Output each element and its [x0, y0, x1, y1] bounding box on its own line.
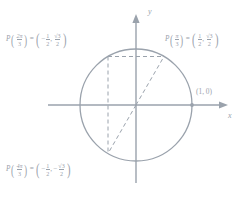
x-coordinate-fraction: 1 2: [46, 163, 50, 177]
dashed-radius-4pi-over-3: [108, 105, 136, 154]
close-paren-icon: ): [24, 165, 27, 176]
y-coordinate-fraction: √3 2: [206, 33, 214, 47]
x-axis-label: x: [228, 112, 232, 120]
open-paren-icon: (: [36, 164, 40, 176]
label-point-1-0: (1, 0): [196, 88, 212, 95]
open-paren-icon: (: [170, 35, 173, 46]
x-axis-arrowhead: [219, 101, 228, 108]
close-paren-icon: ): [215, 34, 219, 46]
y-sign: −: [53, 166, 57, 173]
y-coordinate-fraction: √3 2: [54, 33, 62, 47]
open-paren-icon: (: [11, 35, 14, 46]
label-function-p: P: [6, 166, 10, 173]
close-paren-icon: ): [24, 35, 27, 46]
comma: ,: [50, 36, 52, 43]
close-paren-icon: ): [67, 164, 71, 176]
angle-fraction: 4π 3: [16, 163, 23, 177]
close-paren-icon: ): [63, 34, 67, 46]
label-function-p: P: [6, 36, 10, 43]
equals-sign: =: [186, 36, 190, 43]
y-axis-arrowhead: [132, 14, 139, 23]
comma: ,: [50, 166, 52, 173]
open-paren-icon: (: [11, 165, 14, 176]
x-sign: −: [41, 166, 45, 173]
point-marker-1-0: [190, 103, 194, 107]
equals-sign: =: [30, 36, 34, 43]
open-paren-icon: (: [36, 34, 40, 46]
x-sign: −: [41, 36, 45, 43]
y-axis-label: y: [148, 8, 152, 16]
angle-fraction: π 3: [175, 33, 179, 47]
label-point-2pi-over-3: P ( 2π 3 ) = ( − 1 2 , √3 2 ): [6, 33, 67, 47]
open-paren-icon: (: [192, 34, 196, 46]
label-function-p: P: [165, 36, 169, 43]
dashed-radius-pi-over-3: [136, 57, 164, 106]
label-point-4pi-over-3: P ( 4π 3 ) = ( − 1 2 , − √3 2 ): [6, 163, 71, 177]
label-point-pi-over-3: P ( π 3 ) = ( 1 2 , √3 2 ): [165, 33, 219, 47]
comma: ,: [202, 36, 204, 43]
x-coordinate-fraction: 1 2: [198, 33, 202, 47]
close-paren-icon: ): [180, 35, 183, 46]
unit-circle-figure: P ( 2π 3 ) = ( − 1 2 , √3 2 ) P: [0, 0, 239, 200]
angle-fraction: 2π 3: [16, 33, 23, 47]
y-coordinate-fraction: √3 2: [58, 163, 66, 177]
x-coordinate-fraction: 1 2: [46, 33, 50, 47]
equals-sign: =: [30, 166, 34, 173]
